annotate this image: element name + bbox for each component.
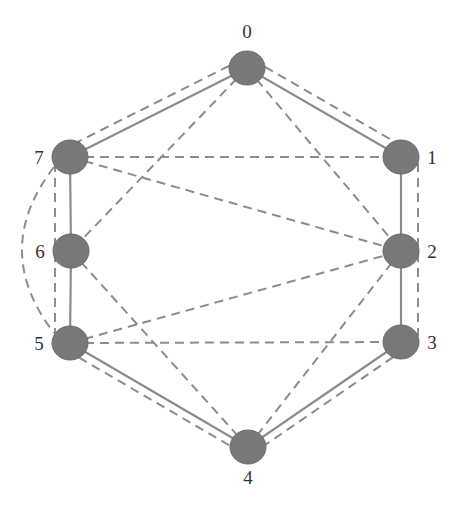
node-label-6: 6 (35, 241, 45, 262)
dashed-edge-6-4 (71, 251, 248, 447)
graph-node-6 (53, 234, 89, 268)
dashed-edge-0-1 (252, 59, 406, 148)
node-labels: 01234567 (34, 21, 437, 488)
graph-diagram: 01234567 (0, 0, 460, 513)
graph-node-0 (229, 51, 265, 85)
solid-edge-0-1 (247, 68, 401, 157)
node-label-3: 3 (427, 332, 437, 353)
dashed-edge-0-6 (71, 68, 247, 251)
graph-node-5 (52, 326, 88, 360)
node-label-4: 4 (243, 467, 253, 488)
solid-edges (70, 68, 401, 447)
dashed-edge-5-4 (66, 350, 244, 454)
dashed-edge-0-2 (247, 68, 401, 251)
solid-edge-4-5 (70, 343, 248, 447)
graph-nodes (52, 51, 419, 464)
graph-node-2 (383, 234, 419, 268)
node-label-5: 5 (34, 333, 44, 354)
dashed-edge-7-2 (70, 157, 401, 251)
node-label-2: 2 (427, 241, 437, 262)
solid-edge-7-0 (70, 68, 247, 157)
node-label-7: 7 (34, 147, 44, 168)
dashed-edge-2-4 (248, 251, 401, 447)
node-label-0: 0 (242, 21, 252, 42)
dashed-edge-0-7 (66, 59, 243, 148)
dashed-edge-5-2 (70, 251, 401, 343)
graph-node-4 (230, 430, 266, 464)
graph-node-3 (383, 325, 419, 359)
node-label-1: 1 (427, 147, 437, 168)
graph-node-1 (383, 140, 419, 174)
graph-node-7 (52, 140, 88, 174)
solid-edge-3-4 (248, 342, 401, 447)
dashed-edge-3-4 (253, 349, 406, 454)
dashed-edge-5-3 (70, 342, 401, 343)
